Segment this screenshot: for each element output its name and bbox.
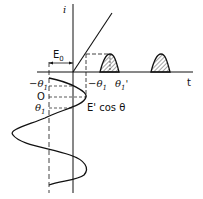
- output-current-pulse-1: [100, 54, 119, 72]
- time-axis-label: t: [187, 78, 191, 88]
- diagram-figure: [0, 0, 203, 199]
- theta-prime-label: θ1': [115, 79, 128, 92]
- output-current-pulse-2: [151, 54, 170, 72]
- input-signal-label: E' cos θ: [87, 103, 125, 113]
- zero-label: O: [37, 92, 45, 102]
- neg-theta-right-label: −θ1: [88, 79, 107, 92]
- bias-label: E0: [53, 50, 64, 63]
- pos-theta-label: θ1: [35, 103, 46, 116]
- current-axis-label: i: [63, 5, 66, 15]
